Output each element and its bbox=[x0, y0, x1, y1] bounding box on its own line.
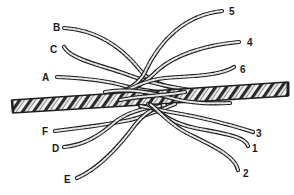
label-f: F bbox=[42, 126, 48, 137]
strand-group-lower bbox=[55, 104, 253, 178]
label-5: 5 bbox=[229, 6, 235, 17]
label-a: A bbox=[42, 72, 49, 83]
label-3: 3 bbox=[256, 128, 262, 139]
label-4: 4 bbox=[247, 37, 253, 48]
label-c: C bbox=[50, 44, 57, 55]
label-b: B bbox=[53, 22, 60, 33]
label-e: E bbox=[64, 174, 71, 185]
label-6: 6 bbox=[240, 64, 246, 75]
label-2: 2 bbox=[243, 168, 249, 179]
label-d: D bbox=[52, 143, 59, 154]
label-1: 1 bbox=[252, 143, 258, 154]
rope-splice-figure: B C A F D E 5 4 6 3 1 2 bbox=[0, 0, 294, 195]
strand-2 bbox=[150, 104, 238, 170]
strand-5 bbox=[90, 11, 222, 100]
